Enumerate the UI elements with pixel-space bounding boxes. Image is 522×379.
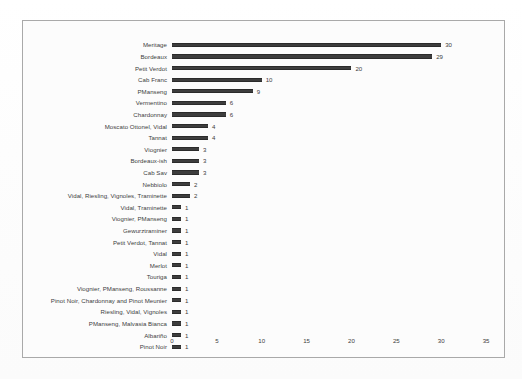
bar-track: 1 (172, 294, 504, 306)
bar-row: Nebbiolo2 (23, 178, 504, 190)
bar-row: Bordeaux-ish3 (23, 155, 504, 167)
bar-value-label: 1 (185, 297, 188, 304)
bar-value-label: 1 (185, 250, 188, 257)
bar-row: Petit Verdot20 (23, 62, 504, 74)
x-axis-tick-label: 15 (303, 337, 310, 345)
category-label: PManseng (23, 88, 172, 95)
x-axis-tick-label: 20 (348, 337, 355, 345)
bar-row: Viognier, PManseng, Roussanne1 (23, 283, 504, 295)
bar-value-label: 4 (212, 123, 215, 130)
category-label: Vidal, Riesling, Vignoles, Traminette (23, 192, 172, 199)
bar (172, 170, 199, 174)
category-label: Bordeaux-ish (23, 157, 172, 164)
category-label: Pinot Noir, Chardonnay and Pinot Meunier (23, 297, 172, 304)
x-axis: 05101520253035 (172, 337, 504, 351)
bar-row: Meritage30 (23, 39, 504, 51)
bar-track: 29 (172, 51, 504, 63)
bar-value-label: 2 (194, 181, 197, 188)
bar-row: Moscato Ottonel, Vidal4 (23, 120, 504, 132)
bar-value-label: 30 (445, 41, 452, 48)
bar-track: 3 (172, 143, 504, 155)
category-label: Vidal (23, 250, 172, 257)
category-label: Nebbiolo (23, 181, 172, 188)
bar (172, 159, 199, 163)
category-label: Viognier (23, 146, 172, 153)
bar (172, 182, 190, 186)
bar-track: 1 (172, 213, 504, 225)
bar-row: Petit Verdot, Tannat1 (23, 236, 504, 248)
x-axis-tick-label: 35 (483, 337, 490, 345)
bar-track: 3 (172, 155, 504, 167)
bar-row: Vidal, Traminette1 (23, 202, 504, 214)
bar-value-label: 29 (436, 53, 443, 60)
bar-row: Tannat4 (23, 132, 504, 144)
bar-track: 1 (172, 225, 504, 237)
bar-track: 9 (172, 85, 504, 97)
bar-row: Chardonnay6 (23, 109, 504, 121)
bar-value-label: 1 (185, 239, 188, 246)
bar-track: 6 (172, 109, 504, 121)
category-label: Cab Sav (23, 169, 172, 176)
bar (172, 252, 181, 256)
category-label: Albariño (23, 332, 172, 339)
bar-row: Touriga1 (23, 271, 504, 283)
bar (172, 89, 253, 93)
bar (172, 240, 181, 244)
category-label: Bordeaux (23, 53, 172, 60)
bar (172, 217, 181, 221)
bar-track: 2 (172, 178, 504, 190)
category-label: Viognier, PManseng (23, 215, 172, 222)
bar-value-label: 2 (194, 192, 197, 199)
bar-value-label: 10 (266, 76, 273, 83)
bar-track: 1 (172, 318, 504, 330)
bar-value-label: 3 (203, 169, 206, 176)
bar-row: Riesling, Vidal, Vignoles1 (23, 306, 504, 318)
bar-value-label: 1 (185, 273, 188, 280)
category-label: Gewurztraminer (23, 227, 172, 234)
bar-value-label: 1 (185, 262, 188, 269)
bar-track: 1 (172, 260, 504, 272)
category-label: Riesling, Vidal, Vignoles (23, 308, 172, 315)
bar-row: Merlot1 (23, 260, 504, 272)
bar-track: 4 (172, 132, 504, 144)
bar-row: Viognier, PManseng1 (23, 213, 504, 225)
bar-value-label: 1 (185, 320, 188, 327)
bar (172, 287, 181, 291)
bar-track: 1 (172, 306, 504, 318)
bar-row: Cab Sav3 (23, 167, 504, 179)
bar (172, 66, 351, 70)
bar-value-label: 1 (185, 204, 188, 211)
bar (172, 136, 208, 140)
bar-rows: Meritage30Bordeaux29Petit Verdot20Cab Fr… (23, 39, 504, 352)
x-axis-tick-label: 5 (215, 337, 218, 345)
bar-track: 6 (172, 97, 504, 109)
x-axis-tick-label: 25 (393, 337, 400, 345)
bar (172, 263, 181, 267)
category-label: Merlot (23, 262, 172, 269)
bar (172, 147, 199, 151)
category-label: Vidal, Traminette (23, 204, 172, 211)
bar (172, 124, 208, 128)
category-label: Moscato Ottonel, Vidal (23, 123, 172, 130)
bar (172, 310, 181, 314)
bar-value-label: 3 (203, 157, 206, 164)
bar-row: Vidal1 (23, 248, 504, 260)
category-label: Petit Verdot, Tannat (23, 239, 172, 246)
bar-value-label: 1 (185, 215, 188, 222)
category-label: Viognier, PManseng, Roussanne (23, 285, 172, 292)
bar-track: 20 (172, 62, 504, 74)
x-axis-tick-label: 0 (170, 337, 173, 345)
bar (172, 298, 181, 302)
bar-row: Vidal, Riesling, Vignoles, Traminette2 (23, 190, 504, 202)
bar-track: 1 (172, 283, 504, 295)
bar (172, 275, 181, 279)
bar-row: Pinot Noir, Chardonnay and Pinot Meunier… (23, 294, 504, 306)
bar (172, 101, 226, 105)
bar (172, 78, 262, 82)
bar-row: Vermentino6 (23, 97, 504, 109)
category-label: Pinot Noir (23, 343, 172, 350)
category-label: Chardonnay (23, 111, 172, 118)
bar-row: Cab Franc10 (23, 74, 504, 86)
bar-value-label: 4 (212, 134, 215, 141)
category-label: Tannat (23, 134, 172, 141)
